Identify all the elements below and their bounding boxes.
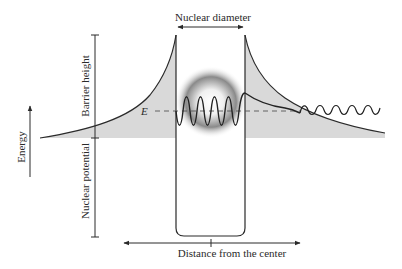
right-barrier-region [245,35,385,138]
energy-axis-label: Energy [15,131,27,163]
nuclear-potential-label: Nuclear potential [79,143,91,219]
barrier-height-label: Barrier height [79,55,91,116]
distance-axis-label: Distance from the center [178,247,287,259]
nucleus-glow [175,66,247,138]
nuclear-diameter-label: Nuclear diameter [175,11,251,23]
alpha-decay-tunneling-diagram: E Nuclear diameter Barrier height Nuclea… [0,0,402,269]
energy-level-label: E [140,105,148,117]
